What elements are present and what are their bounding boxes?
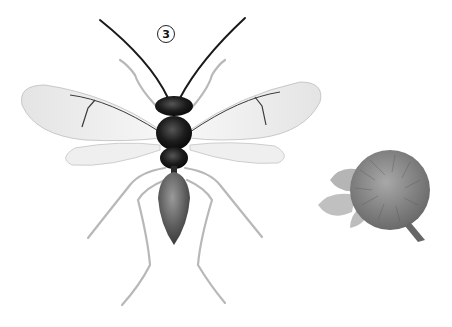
illustration-plate (0, 0, 452, 327)
propodeum (160, 147, 188, 169)
thorax (156, 116, 192, 150)
gall-leaf (318, 194, 355, 216)
right-forewing (190, 82, 321, 140)
plant-gall-illustration (318, 150, 430, 242)
gall-stem (405, 222, 425, 242)
figure-number-label: 3 (157, 25, 175, 43)
left-hindwing (66, 143, 160, 165)
right-hindwing (190, 143, 284, 164)
abdomen (158, 172, 190, 245)
wasp-illustration (21, 18, 320, 305)
left-forewing (21, 85, 160, 141)
head (155, 96, 193, 116)
gall-body (350, 150, 430, 230)
